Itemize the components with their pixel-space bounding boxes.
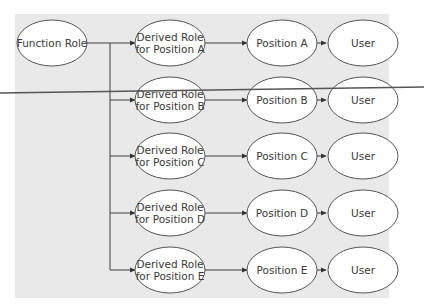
position-node-a: Position A [247,20,317,66]
position-node-e-label: Position E [257,264,308,276]
user-node-c: User [328,133,398,179]
user-node-d-label: User [351,207,376,219]
position-node-b-label: Position B [256,94,307,106]
user-node-a: User [328,20,398,66]
position-node-d: Position D [247,190,317,236]
position-node-a-label: Position A [256,37,308,49]
derived-role-node-d-label: for Position D [135,213,205,225]
position-node-c: Position C [247,133,317,179]
user-node-b-label: User [351,94,376,106]
role-hierarchy-diagram: Function RoleDerived Rolefor Position AP… [0,0,424,307]
derived-role-node-a: Derived Rolefor Position A [135,20,205,66]
derived-role-node-c-label: for Position C [135,156,204,168]
derived-role-node-b-label: Derived Role [136,88,203,100]
user-node-a-label: User [351,37,376,49]
function-role-node: Function Role [17,20,88,66]
derived-role-node-e-label: Derived Role [136,258,203,270]
derived-role-node-a-label: Derived Role [136,31,203,43]
derived-role-node-c: Derived Rolefor Position C [135,133,205,179]
function-role-node-label: Function Role [17,37,88,49]
position-node-b: Position B [247,77,317,123]
position-node-e: Position E [247,247,317,293]
derived-role-node-d: Derived Rolefor Position D [135,190,205,236]
derived-role-node-a-label: for Position A [135,43,205,55]
derived-role-node-b-label: for Position B [135,100,204,112]
derived-role-node-e-label: for Position E [136,270,205,282]
position-node-d-label: Position D [256,207,308,219]
derived-role-node-c-label: Derived Role [136,144,203,156]
derived-role-node-b: Derived Rolefor Position B [135,77,205,123]
derived-role-node-d-label: Derived Role [136,201,203,213]
user-node-c-label: User [351,150,376,162]
derived-role-node-e: Derived Rolefor Position E [135,247,205,293]
user-node-e: User [328,247,398,293]
user-node-b: User [328,77,398,123]
position-node-c-label: Position C [256,150,308,162]
user-node-e-label: User [351,264,376,276]
user-node-d: User [328,190,398,236]
